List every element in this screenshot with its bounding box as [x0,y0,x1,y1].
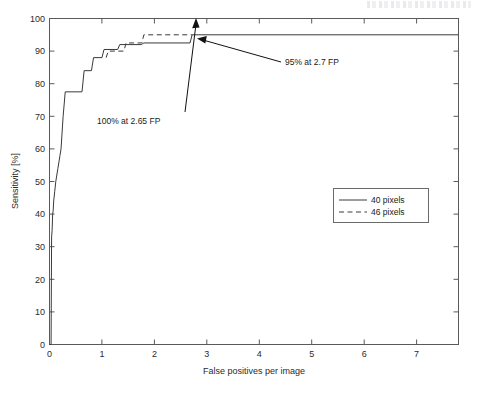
x-axis-title: False positives per image [203,366,305,376]
y-tick-label: 40 [35,209,45,219]
y-tick-label: 10 [35,307,45,317]
plot-frame [50,19,459,345]
x-tick-label: 5 [309,349,314,359]
figure-canvas: 100 90 80 70 60 50 40 30 20 10 0 0 1 2 3… [0,0,479,404]
x-tick-label: 3 [204,349,209,359]
y-tick-label: 60 [35,144,45,154]
legend-label-40-pixels: 40 pixels [371,195,405,205]
y-tick-label: 80 [35,79,45,89]
annotation-100-label: 100% at 2.65 FP [97,116,161,126]
y-axis-ticks [50,19,459,345]
y-tick-labels: 100 90 80 70 60 50 40 30 20 10 0 [30,14,45,350]
x-tick-labels: 0 1 2 3 4 5 6 7 [47,349,419,359]
x-axis-ticks [50,19,417,345]
x-tick-label: 7 [414,349,419,359]
legend-box [334,189,429,223]
x-tick-label: 2 [152,349,157,359]
y-tick-label: 20 [35,275,45,285]
legend: 40 pixels 46 pixels [334,189,429,223]
y-tick-label: 50 [35,177,45,187]
y-tick-label: 0 [40,340,45,350]
y-tick-label: 100 [30,14,45,24]
annotation-100-percent: 100% at 2.65 FP [97,18,200,126]
y-tick-label: 90 [35,46,45,56]
x-tick-label: 4 [257,349,262,359]
froc-chart: 100 90 80 70 60 50 40 30 20 10 0 0 1 2 3… [0,0,479,404]
y-tick-label: 70 [35,112,45,122]
legend-label-46-pixels: 46 pixels [371,207,405,217]
x-tick-label: 1 [99,349,104,359]
x-tick-label: 0 [47,349,52,359]
y-axis-title: Sensitivity [%] [10,153,20,209]
annotation-95-label: 95% at 2.7 FP [285,57,339,67]
x-tick-label: 6 [362,349,367,359]
scan-artifact-smudge [367,1,471,8]
annotation-95-percent: 95% at 2.7 FP [197,36,339,67]
y-tick-label: 30 [35,242,45,252]
